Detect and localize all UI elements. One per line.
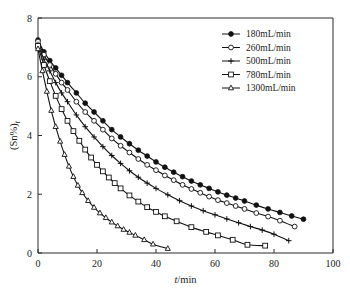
marker-5 [65,80,70,85]
marker-20 [198,182,203,187]
y-tick-label-0: 0 [27,248,32,259]
marker-22 [165,246,170,251]
marker-8 [83,147,88,152]
marker-17 [177,198,183,204]
marker-24 [233,196,238,201]
marker-3 [49,108,54,113]
marker-12 [106,175,111,180]
marker-5 [58,138,63,143]
x-tick-label-4: 80 [269,258,279,269]
marker-10 [109,136,114,141]
marker-18 [154,209,159,214]
marker-22 [216,198,221,203]
marker-9 [101,118,106,123]
marker-6 [74,91,79,96]
marker-18 [127,230,132,235]
marker-legend-3 [229,72,234,77]
marker-4 [59,90,65,96]
marker-22 [236,220,242,226]
marker-6 [74,99,79,104]
x-tick-label-1: 20 [92,258,102,269]
marker-28 [278,218,283,223]
marker-7 [77,138,82,143]
marker-11 [118,143,123,148]
y-tick-label-1: 2 [27,189,32,200]
marker-7 [83,110,88,115]
legend-entry-2[interactable]: 500mL/min [222,56,291,66]
legend-label-3: 780mL/min [246,70,291,80]
marker-14 [145,154,150,159]
marker-19 [189,187,194,192]
marker-29 [289,214,294,219]
marker-11 [118,135,123,140]
marker-20 [212,212,218,218]
marker-5 [65,118,70,123]
marker-13 [112,181,117,186]
marker-25 [242,199,247,204]
marker-8 [92,110,97,115]
x-axis-title: t/min [174,274,197,285]
marker-15 [127,193,132,198]
y-axis-title: (Sn%)t [8,120,22,150]
marker-5 [65,88,70,93]
x-axis-title-unit: /min [177,274,197,285]
marker-7 [66,163,71,168]
marker-2 [47,79,52,84]
marker-25 [245,242,250,247]
legend-entry-0[interactable]: 180mL/min [222,29,291,39]
marker-12 [127,150,132,155]
marker-legend-0 [229,32,234,37]
marker-9 [101,127,106,132]
marker-20 [174,219,179,224]
marker-4 [59,80,64,85]
chart-legend: 180mL/min260mL/min500mL/min780mL/min1300… [222,29,296,93]
marker-19 [200,208,206,214]
legend-entry-1[interactable]: 260mL/min [222,43,291,53]
marker-17 [171,170,176,175]
legend-label-1: 260mL/min [246,43,291,53]
marker-15 [109,219,114,224]
marker-4 [59,73,64,78]
marker-11 [101,169,106,174]
marker-4 [59,107,64,112]
marker-16 [162,173,167,178]
x-tick-label-3: 60 [210,258,220,269]
y-axis-title-main: (Sn%) [8,123,20,150]
marker-3 [53,93,58,98]
marker-15 [154,160,159,165]
marker-22 [216,190,221,195]
plot-border [38,18,333,253]
marker-legend-4 [228,85,233,90]
marker-30 [301,217,306,222]
marker-2 [44,89,49,94]
axis-frame [38,18,333,253]
marker-10 [109,127,114,132]
series-line [38,40,304,219]
marker-25 [271,231,277,237]
marker-6 [62,152,67,157]
marker-18 [180,182,185,187]
marker-20 [142,237,147,242]
marker-14 [145,162,150,167]
chart-figure: 020406080100 02468 180mL/min260mL/min500… [0,0,350,290]
x-tick-label-0: 0 [36,258,41,269]
legend-entry-4[interactable]: 1300mL/min [222,83,296,93]
x-axis-tick-labels: 020406080100 [36,258,341,269]
marker-24 [230,237,235,242]
y-tick-label-4: 8 [27,13,32,24]
marker-13 [136,148,141,153]
marker-16 [165,192,171,198]
marker-8 [71,174,76,179]
marker-19 [189,179,194,184]
x-tick-label-5: 100 [326,258,341,269]
marker-27 [266,214,271,219]
legend-label-0: 180mL/min [246,29,291,39]
legend-entry-3[interactable]: 780mL/min [222,70,291,80]
marker-6 [71,129,76,134]
marker-18 [189,203,195,209]
y-axis-title-subscript: t [13,120,22,123]
marker-16 [115,223,120,228]
marker-3 [53,80,59,86]
y-axis-tick-labels: 02468 [27,13,32,259]
marker-17 [171,178,176,183]
